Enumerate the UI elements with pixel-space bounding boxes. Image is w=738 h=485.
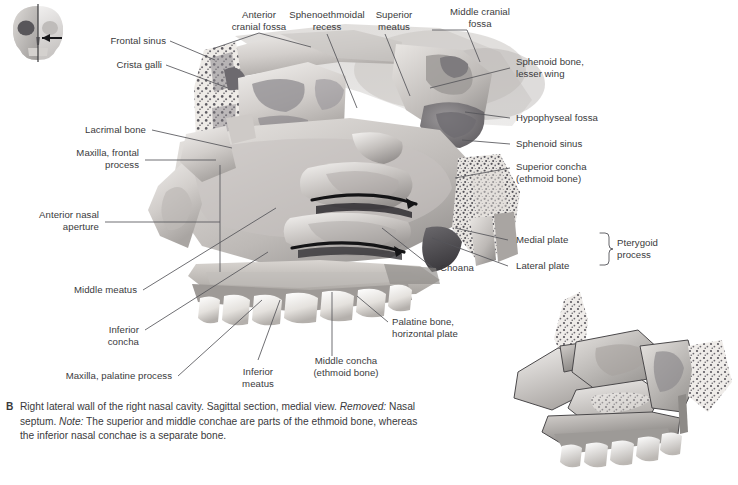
caption-plate-tag: B <box>6 401 13 412</box>
caption-part-1: Right lateral wall of the right nasal ca… <box>20 401 340 412</box>
label-lateral-plate: Lateral plate <box>516 260 598 272</box>
caption-removed-label: Removed: <box>340 401 386 412</box>
label-middle-concha: Middle concha (ethmoid bone) <box>287 355 405 378</box>
label-middle-cranial-fossa: Middle cranial fossa <box>432 6 528 29</box>
lateral-nasal-wall-bones-inset <box>492 286 734 482</box>
label-frontal-sinus: Frontal sinus <box>0 35 166 47</box>
figure-caption: B Right lateral wall of the right nasal … <box>6 400 426 444</box>
label-anterior-nasal-aperture: Anterior nasal aperture <box>0 209 99 232</box>
label-maxilla-palatine-process: Maxilla, palatine process <box>0 370 172 382</box>
caption-text: Right lateral wall of the right nasal ca… <box>20 400 426 444</box>
label-palatine-bone-horizontal: Palatine bone, horizontal plate <box>392 316 512 339</box>
label-sphenoid-bone-lesser-wing: Sphenoid bone, lesser wing <box>516 56 636 79</box>
label-maxilla-frontal-process: Maxilla, frontal process <box>0 147 139 170</box>
label-sphenoid-sinus: Sphenoid sinus <box>516 138 636 150</box>
label-crista-galli: Crista galli <box>0 59 162 71</box>
label-lacrimal-bone: Lacrimal bone <box>0 124 146 136</box>
label-superior-concha: Superior concha (ethmoid bone) <box>516 161 636 184</box>
label-medial-plate: Medial plate <box>516 234 598 246</box>
label-middle-meatus: Middle meatus <box>0 284 137 296</box>
caption-note-label: Note: <box>59 416 83 427</box>
label-hypophyseal-fossa: Hypophyseal fossa <box>516 112 646 124</box>
label-inferior-concha: Inferior concha <box>0 324 139 347</box>
label-superior-meatus: Superior meatus <box>355 9 433 32</box>
skull-orientation-icon <box>6 4 70 62</box>
label-choana: Choana <box>440 262 510 274</box>
anatomy-figure: Frontal sinus Crista galli Anterior cran… <box>0 0 738 485</box>
label-pterygoid-process: Pterygoid process <box>617 237 701 260</box>
